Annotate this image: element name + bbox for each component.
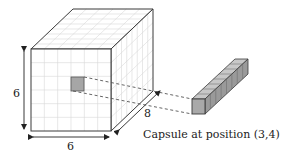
depth-label: 8 [144,107,151,120]
capsule-front-face [192,99,205,114]
capsule-diagram: 6 6 8 Capsule at position (3,4) [0,0,282,153]
capsule-caption: Capsule at position (3,4) [143,128,280,141]
capsule-prism [192,59,248,114]
width-label: 6 [67,140,74,153]
width-dimension: 6 [33,137,109,153]
cube-front-face [31,49,111,131]
height-label: 6 [13,87,20,100]
highlighted-cell [71,77,84,91]
height-dimension: 6 [13,51,24,129]
